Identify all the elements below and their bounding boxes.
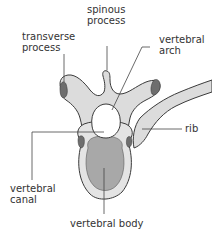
body-left-facet-shape [78,136,84,148]
label-vertebral-canal: vertebral canal [10,183,56,205]
label-vertebral-arch: vertebral arch [159,34,205,56]
label-vertebral-body: vertebral body [70,218,144,229]
label-vertebral-arch-line2: arch [159,45,205,56]
vertebral-canal-shape [92,104,121,138]
body-right-facet-shape [126,137,132,148]
label-vertebral-canal-line1: vertebral [10,183,56,194]
label-rib: rib [185,123,198,134]
label-transverse-process: transverse process [22,31,75,53]
label-vertebral-canal-line2: canal [10,194,56,205]
label-rib-line1: rib [185,123,198,134]
left-facet-shape [60,82,67,98]
label-spinous-process-line1: spinous [87,4,125,15]
label-spinous-process: spinous process [87,4,125,26]
label-spinous-process-line2: process [87,15,125,26]
label-vertebral-arch-line1: vertebral [159,34,205,45]
vertebral-body-inner-shape [86,136,124,191]
label-transverse-process-line2: process [22,42,75,53]
label-vertebral-body-line1: vertebral body [70,218,144,229]
label-transverse-process-line1: transverse [22,31,75,42]
